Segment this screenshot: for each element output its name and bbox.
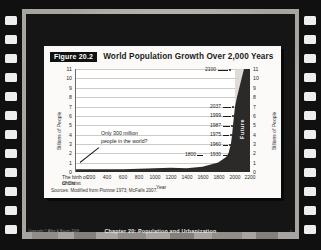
plot-area (75, 69, 250, 172)
population-curve (76, 69, 250, 172)
film-perforation (304, 187, 316, 196)
film-perforation (5, 168, 17, 177)
x-tick-label: 1400 (179, 175, 195, 181)
film-perforation (5, 54, 17, 63)
footer-copyright: Copyright © Allyn & Bacon 2009 (28, 229, 79, 233)
milestone-leader (197, 155, 203, 156)
y-tick-label: 6 (63, 114, 72, 119)
milestone-leader (223, 107, 231, 108)
film-perforation (5, 149, 17, 158)
y-tick-label-right: 9 (253, 86, 262, 91)
y-axis-label-right: Billions of People (271, 112, 277, 150)
y-tick-label-right: 4 (253, 133, 262, 138)
y-tick-label-right: 11 (253, 67, 262, 72)
y-tick-label: 8 (63, 95, 72, 100)
film-perforation (5, 225, 17, 234)
milestone-leader (223, 135, 229, 136)
milestone-leader (223, 126, 230, 127)
x-tick-label: 2200 (242, 175, 258, 181)
film-perforation (5, 73, 17, 82)
y-tick-label: 10 (63, 76, 72, 81)
milestone-dot (229, 69, 231, 71)
film-perforation (304, 54, 316, 63)
film-strip-right (299, 0, 321, 250)
film-perforation (5, 92, 17, 101)
milestone-leader (223, 155, 227, 156)
footer-chapter-title: Chapter 20: Population and Urbanization (104, 228, 216, 234)
film-perforation (304, 111, 316, 120)
milestone-leader (218, 70, 228, 71)
milestone-leader (223, 116, 231, 117)
callout-text: Only 300 million people in the world? (101, 130, 147, 145)
y-tick-label-right: 1 (253, 161, 262, 166)
milestone-label: 1987 (205, 123, 221, 128)
y-tick-label-right: 10 (253, 76, 262, 81)
y-tick-label: 4 (63, 133, 72, 138)
x-tick-label: 2000 (227, 175, 243, 181)
film-perforation (5, 16, 17, 25)
film-strip-left (0, 0, 22, 250)
x-axis-label: Year (156, 184, 166, 190)
y-tick-label-right: 2 (253, 151, 262, 156)
film-perforation (304, 225, 316, 234)
milestone-label: 1999 (205, 113, 221, 118)
figure-header: Figure 20.2 World Population Growth Over… (50, 50, 277, 63)
milestone-dot (231, 125, 233, 127)
figure-title: World Population Growth Over 2,000 Years (103, 52, 273, 61)
milestone-label: 2037 (204, 104, 221, 109)
footer-page-number: 1 (290, 229, 292, 234)
x-tick-label: 200 (84, 175, 98, 181)
x-tick-label: 1000 (147, 175, 163, 181)
y-tick-label-right: 5 (253, 123, 262, 128)
film-perforation (5, 130, 17, 139)
film-edge-top (0, 0, 321, 9)
milestone-label: 1800 (180, 152, 196, 157)
y-tick-label: 5 (63, 123, 72, 128)
y-tick-label: 9 (63, 86, 72, 91)
milestone-dot (229, 144, 231, 146)
film-perforation (304, 73, 316, 82)
film-perforation (304, 206, 316, 215)
milestone-label: 1930 (205, 152, 221, 157)
x-tick-label: 400 (100, 175, 114, 181)
x-tick-label-birth-line2: of Christ (62, 181, 90, 187)
film-perforation (304, 16, 316, 25)
x-tick-label: 600 (116, 175, 130, 181)
figure-source: Sources: Modified from Piotrow 1973; McF… (51, 188, 157, 193)
y-tick-label-right: 3 (253, 142, 262, 147)
milestone-dot (228, 154, 230, 156)
x-tick-label: 1600 (195, 175, 211, 181)
y-tick-label: 11 (63, 67, 72, 72)
film-perforation (5, 187, 17, 196)
future-band-label: Future (239, 119, 245, 139)
milestone-label: 2100 (199, 67, 216, 72)
x-tick-label: 800 (132, 175, 146, 181)
y-tick-label-right: 8 (253, 95, 262, 100)
callout-line-2: people in the world? (101, 138, 147, 146)
y-tick-label-right: 7 (253, 105, 262, 110)
film-edge-bottom (0, 239, 321, 250)
slide-background: Figure 20.2 World Population Growth Over… (0, 0, 321, 250)
figure-number-badge: Figure 20.2 (50, 52, 97, 62)
slide-footer: Copyright © Allyn & Bacon 2009 Chapter 2… (26, 226, 295, 236)
figure-card: Figure 20.2 World Population Growth Over… (44, 46, 281, 198)
milestone-label: 1960 (205, 142, 221, 147)
film-perforation (304, 92, 316, 101)
y-tick-label: 3 (63, 142, 72, 147)
callout-line-1: Only 300 million (101, 130, 147, 138)
film-perforation (5, 35, 17, 44)
film-perforation (5, 206, 17, 215)
film-perforation (5, 111, 17, 120)
milestone-dot (230, 134, 232, 136)
milestone-label: 1975 (205, 132, 221, 137)
x-tick-label: 1800 (211, 175, 227, 181)
film-perforation (304, 130, 316, 139)
milestone-leader (223, 145, 228, 146)
y-axis-label-left: Billions of People (56, 112, 62, 150)
y-tick-label-right: 6 (253, 114, 262, 119)
y-tick-label: 2 (63, 151, 72, 156)
y-tick-label: 1 (63, 161, 72, 166)
film-perforation (304, 168, 316, 177)
film-perforation (304, 149, 316, 158)
milestone-dot (232, 115, 234, 117)
